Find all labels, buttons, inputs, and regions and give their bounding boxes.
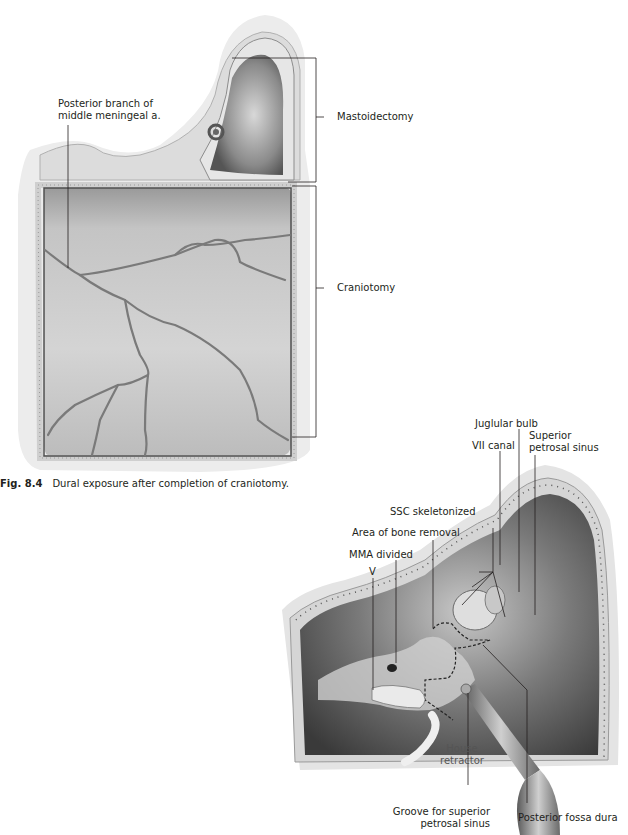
craniotomy-illustration <box>18 15 310 472</box>
label-mma-divided: MMA divided <box>349 549 413 561</box>
label-posterior-branch: Posterior branch of middle meningeal a. <box>58 98 161 122</box>
label-house-retractor-line1: House <box>432 743 492 755</box>
label-posterior-branch-line1: Posterior branch of <box>58 98 161 110</box>
label-sps-line1: Superior <box>529 430 599 442</box>
label-groove-line2: petrosal sinus <box>386 818 490 830</box>
label-juglular-bulb: Juglular bulb <box>475 418 538 430</box>
label-area-of-bone-removal: Area of bone removal <box>352 527 460 539</box>
label-groove-line1: Groove for superior <box>386 806 490 818</box>
label-ssc-skeletonized: SSC skeletonized <box>390 506 476 518</box>
label-house-retractor-line2: retractor <box>432 755 492 767</box>
label-superior-petrosal-sinus: Superior petrosal sinus <box>529 430 599 454</box>
figure-caption-text: Dural exposure after completion of crani… <box>52 478 288 489</box>
label-posterior-fossa-dura: Posterior fossa dura <box>518 812 618 824</box>
label-groove-superior-petrosal-sinus: Groove for superior petrosal sinus <box>386 806 490 830</box>
label-house-retractor: House retractor <box>432 743 492 767</box>
label-posterior-branch-line2: middle meningeal a. <box>58 110 161 122</box>
label-vii-canal: VII canal <box>472 440 515 452</box>
label-craniotomy: Craniotomy <box>337 282 395 294</box>
label-v: V <box>369 566 376 578</box>
label-sps-line2: petrosal sinus <box>529 442 599 454</box>
figure-caption: Fig. 8.4Dural exposure after completion … <box>0 478 289 490</box>
middle-fossa-exposure-illustration <box>282 465 619 835</box>
figure-number: Fig. 8.4 <box>0 478 42 489</box>
label-mastoidectomy: Mastoidectomy <box>337 111 413 123</box>
